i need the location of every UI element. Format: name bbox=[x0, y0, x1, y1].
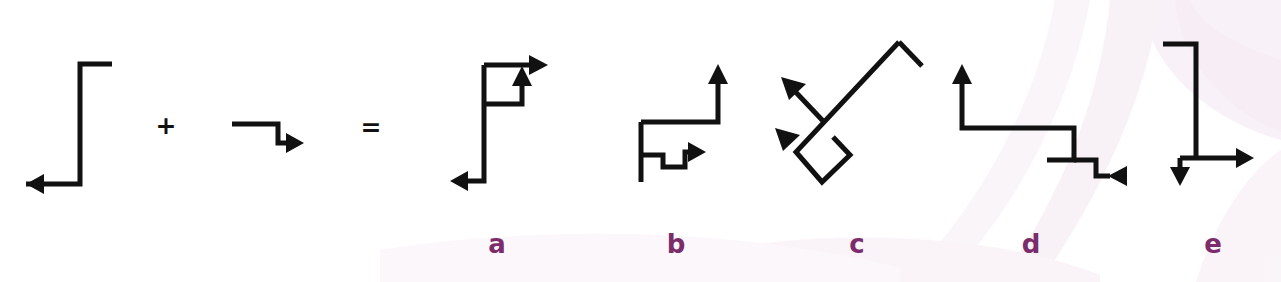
arrow-left-terminal-icon bbox=[1108, 166, 1127, 186]
watermark-graphic bbox=[380, 0, 1281, 282]
panel-label-c: c bbox=[849, 229, 864, 259]
arrow-up-icon bbox=[708, 64, 728, 84]
operand-1-path bbox=[26, 64, 112, 184]
result-b-path-0 bbox=[641, 76, 718, 122]
result-b-path-2 bbox=[641, 152, 694, 167]
arrow-right-inner-icon bbox=[688, 142, 706, 162]
operand-2-path bbox=[232, 124, 292, 143]
panel-label-b: b bbox=[667, 229, 686, 259]
figure-root: + = bbox=[0, 0, 1281, 282]
arrow-right-icon bbox=[286, 133, 304, 153]
panel-label-e: e bbox=[1204, 229, 1222, 259]
result-a-path-1 bbox=[462, 65, 484, 181]
result-shape-b bbox=[641, 64, 728, 182]
operand-shape-1 bbox=[26, 64, 112, 194]
arrow-upleft-inner-icon bbox=[775, 128, 800, 151]
operand-shape-2 bbox=[232, 124, 304, 153]
result-shape-c bbox=[775, 42, 922, 182]
panel-label-d: d bbox=[1022, 229, 1041, 259]
arrow-down-icon bbox=[1170, 167, 1190, 186]
arrow-left-icon bbox=[26, 174, 44, 194]
panel-label-a: a bbox=[488, 229, 506, 259]
arrow-left-bottom-icon bbox=[450, 171, 468, 191]
plus-operator: + bbox=[156, 111, 177, 140]
result-c-path-0 bbox=[899, 42, 922, 66]
vector-diagram: + = bbox=[0, 0, 1281, 282]
arrow-up-icon bbox=[952, 64, 972, 84]
equals-operator: = bbox=[361, 113, 382, 142]
arrow-right-top-icon bbox=[529, 55, 548, 75]
result-shape-a bbox=[450, 55, 548, 191]
arrow-right-icon bbox=[1236, 148, 1254, 168]
